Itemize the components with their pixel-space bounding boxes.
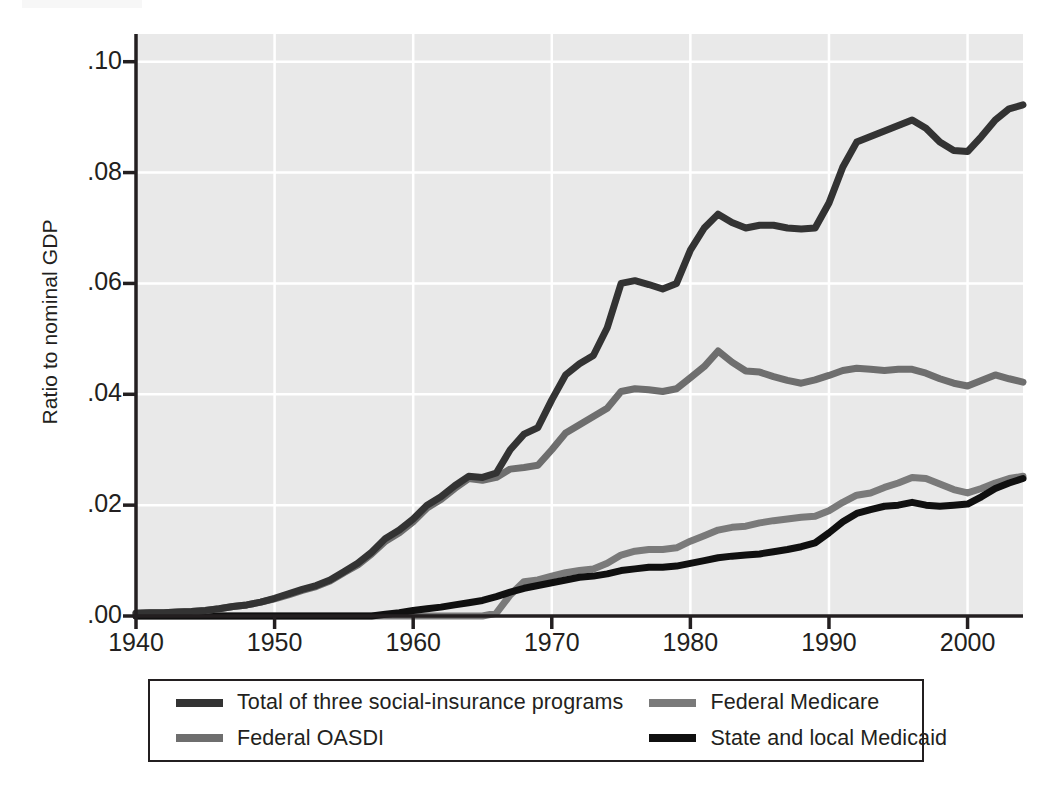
legend-label-medicaid: State and local Medicaid: [710, 726, 947, 751]
y-tick-labels: .00.02.04.06.08.10: [50, 0, 122, 620]
legend-swatch-oasdi: [176, 734, 223, 742]
x-tick-label: 1940: [76, 630, 196, 655]
chart-legend: Total of three social-insurance programs…: [148, 679, 924, 762]
legend-item-oasdi[interactable]: Federal OASDI: [150, 726, 623, 751]
x-tick-label: 1990: [769, 630, 889, 655]
x-tick-label: 1960: [353, 630, 473, 655]
legend-swatch-total: [176, 699, 223, 707]
x-tick-label: 2000: [908, 630, 1028, 655]
x-tick-label: 1950: [215, 630, 335, 655]
legend-item-total[interactable]: Total of three social-insurance programs: [150, 690, 623, 715]
legend-item-medicare[interactable]: Federal Medicare: [623, 690, 947, 715]
y-tick-label: .02: [52, 491, 122, 516]
figure-root: Ratio to nominal GDP .00.02.04.06.08.10 …: [0, 0, 1049, 800]
x-tick-label: 1970: [492, 630, 612, 655]
y-tick-label: .04: [52, 380, 122, 405]
x-tick-label: 1980: [630, 630, 750, 655]
x-tick-labels: 1940195019601970198019902000: [0, 630, 1049, 670]
y-tick-label: .00: [52, 602, 122, 627]
y-tick-label: .10: [52, 48, 122, 73]
legend-label-medicare: Federal Medicare: [710, 690, 879, 715]
legend-item-medicaid[interactable]: State and local Medicaid: [623, 726, 947, 751]
legend-label-oasdi: Federal OASDI: [237, 726, 384, 751]
legend-label-total: Total of three social-insurance programs: [237, 690, 623, 715]
y-tick-label: .08: [52, 159, 122, 184]
legend-swatch-medicaid: [649, 734, 696, 742]
y-tick-label: .06: [52, 269, 122, 294]
plot-background: [136, 34, 1023, 616]
legend-swatch-medicare: [649, 699, 696, 707]
